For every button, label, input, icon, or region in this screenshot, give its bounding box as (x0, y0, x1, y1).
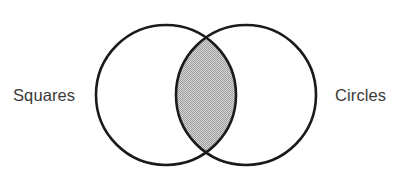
set-label-circles: Circles (335, 87, 386, 104)
venn-diagram: Squares Circles (0, 0, 409, 180)
set-label-squares: Squares (13, 87, 75, 104)
